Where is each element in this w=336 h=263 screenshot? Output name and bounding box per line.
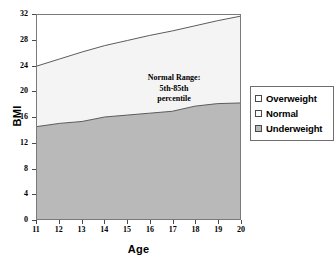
y-axis-tick-mark: [32, 91, 36, 92]
x-axis-tick-label: 19: [208, 225, 228, 234]
legend-item-label: Normal: [266, 108, 298, 119]
y-axis-tick-label: 0: [12, 216, 28, 224]
x-axis-tick-label: 12: [49, 225, 69, 234]
y-axis-tick-mark: [32, 194, 36, 195]
y-axis-tick-label: 24: [12, 62, 28, 70]
x-axis-tick-label: 16: [140, 225, 160, 234]
legend-item-underweight[interactable]: Underweight: [255, 121, 330, 136]
y-axis-tick-mark: [32, 40, 36, 41]
x-axis-tick-label: 13: [72, 225, 92, 234]
y-axis-tick-mark: [32, 66, 36, 67]
x-axis-tick-mark: [36, 220, 37, 224]
x-axis-tick-mark: [218, 220, 219, 224]
y-axis-tick-mark: [32, 14, 36, 15]
legend-item-label: Underweight: [266, 123, 322, 134]
y-axis-tick-mark: [32, 117, 36, 118]
y-axis-tick-label: 4: [12, 190, 28, 198]
x-axis-tick-mark: [195, 220, 196, 224]
y-axis-title: BMI: [11, 86, 23, 146]
y-axis-tick-mark: [32, 143, 36, 144]
legend-swatch-icon: [255, 125, 262, 132]
x-axis-title: Age: [36, 243, 241, 255]
x-axis-tick-label: 17: [163, 225, 183, 234]
x-axis-tick-label: 11: [26, 225, 46, 234]
legend-item-label: Overweight: [266, 93, 317, 104]
x-axis-tick-mark: [127, 220, 128, 224]
x-axis-tick-mark: [82, 220, 83, 224]
legend-swatch-icon: [255, 110, 262, 117]
y-axis-tick-label: 32: [12, 10, 28, 18]
y-axis-tick-label: 8: [12, 165, 28, 173]
chart-legend: OverweightNormalUnderweight: [250, 86, 334, 141]
x-axis-tick-label: 18: [185, 225, 205, 234]
y-axis-tick-mark: [32, 169, 36, 170]
x-axis-tick-label: 20: [231, 225, 251, 234]
x-axis-tick-mark: [150, 220, 151, 224]
legend-item-normal[interactable]: Normal: [255, 106, 330, 121]
x-axis-tick-label: 14: [94, 225, 114, 234]
y-axis-tick-label: 28: [12, 36, 28, 44]
plot-area: Normal Range: 5th-85th percentile: [36, 14, 241, 220]
bmi-chart: Normal Range: 5th-85th percentile 048121…: [0, 0, 336, 263]
plot-svg: [37, 15, 240, 219]
x-axis-tick-mark: [59, 220, 60, 224]
x-axis-tick-label: 15: [117, 225, 137, 234]
x-axis-tick-mark: [104, 220, 105, 224]
legend-item-overweight[interactable]: Overweight: [255, 91, 330, 106]
legend-swatch-icon: [255, 95, 262, 102]
x-axis-tick-mark: [241, 220, 242, 224]
x-axis-tick-mark: [173, 220, 174, 224]
